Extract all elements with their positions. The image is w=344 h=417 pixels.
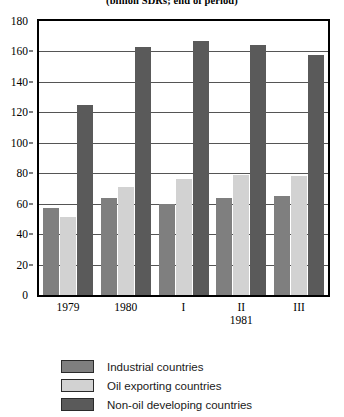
legend-label: Industrial countries xyxy=(107,361,204,373)
x-axis-tick-label: II1981 xyxy=(230,301,253,326)
y-axis-tick-mark xyxy=(29,81,33,82)
bar xyxy=(176,179,192,295)
bar xyxy=(135,47,151,295)
bar-group xyxy=(43,21,93,295)
bar-group xyxy=(216,21,266,295)
bar xyxy=(308,55,324,296)
bar-group xyxy=(101,21,151,295)
bar xyxy=(118,187,134,295)
y-axis-tick-label: 140 xyxy=(11,76,28,88)
bar-group xyxy=(274,21,324,295)
y-axis-tick-label: 0 xyxy=(22,289,28,301)
plot-inner xyxy=(39,21,328,295)
bar xyxy=(101,198,117,295)
legend-item: Non-oil developing countries xyxy=(61,395,341,414)
y-axis-tick-mark xyxy=(29,234,33,235)
bar xyxy=(250,45,266,295)
bar xyxy=(43,208,59,295)
chart-legend: Industrial countriesOil exporting countr… xyxy=(61,357,341,414)
y-axis-tick-mark xyxy=(29,51,33,52)
bar xyxy=(77,105,93,295)
legend-label: Oil exporting countries xyxy=(107,380,221,392)
x-axis-tick-label: 1979 xyxy=(56,301,79,313)
bar xyxy=(216,198,232,295)
x-axis-tick-label: 1980 xyxy=(114,301,137,313)
bar xyxy=(291,176,307,295)
legend-item: Oil exporting countries xyxy=(61,376,341,395)
x-axis: 19791980III1981III xyxy=(37,301,330,335)
bar-group xyxy=(159,21,209,295)
legend-swatch xyxy=(61,379,94,392)
legend-swatch xyxy=(61,398,94,411)
bar xyxy=(193,41,209,295)
y-axis-tick-label: 40 xyxy=(17,228,29,240)
y-axis-tick-mark xyxy=(29,173,33,174)
x-axis-tick-label: I xyxy=(182,301,186,313)
legend-item: Industrial countries xyxy=(61,357,341,376)
y-axis-tick-label: 20 xyxy=(17,259,29,271)
y-axis-tick-label: 160 xyxy=(11,45,28,57)
bar xyxy=(159,204,175,295)
y-axis-tick-label: 60 xyxy=(17,198,29,210)
y-axis-tick-label: 100 xyxy=(11,137,28,149)
y-axis-tick-mark xyxy=(29,112,33,113)
y-axis-tick-label: 180 xyxy=(11,15,28,27)
plot-area xyxy=(37,19,330,297)
y-axis-tick-mark xyxy=(29,264,33,265)
legend-label: Non-oil developing countries xyxy=(107,399,252,411)
legend-swatch xyxy=(61,360,94,373)
y-axis-tick-mark xyxy=(29,203,33,204)
bar xyxy=(60,217,76,295)
x-axis-tick-label: III xyxy=(293,301,305,313)
y-axis-tick-mark xyxy=(29,142,33,143)
bar xyxy=(233,175,249,295)
bar xyxy=(274,196,290,295)
y-axis-tick-label: 80 xyxy=(17,167,29,179)
y-axis: 020406080100120140160180 xyxy=(0,19,33,297)
y-axis-tick-label: 120 xyxy=(11,106,28,118)
chart-subtitle: (billion SDRs; end of period) xyxy=(0,0,344,6)
